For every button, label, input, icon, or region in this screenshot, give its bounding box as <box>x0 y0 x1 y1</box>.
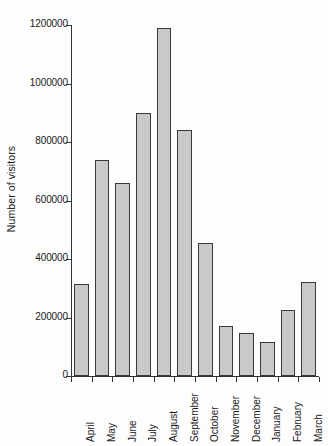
bar-november <box>219 326 233 376</box>
bar-may <box>95 160 109 376</box>
y-tick-label: 1000000 <box>30 77 68 88</box>
x-axis-label-text: August <box>168 411 179 442</box>
x-axis-labels: AprilMayJuneJulyAugustSeptemberOctoberNo… <box>71 382 321 446</box>
y-tick-label: 0 <box>63 369 68 380</box>
x-axis-label-text: September <box>189 393 200 442</box>
bar-december <box>239 333 253 376</box>
y-axis-title-text: Number of visitors <box>5 146 17 232</box>
y-tick-label: 200000 <box>35 311 68 322</box>
bar-january <box>260 342 274 377</box>
x-axis-label-text: November <box>230 396 241 442</box>
y-tick-label: 600000 <box>35 194 68 205</box>
y-tick-label: 800000 <box>35 135 68 146</box>
bar-chart: Number of visitors 020000040000060000080… <box>0 0 328 446</box>
bar-september <box>177 130 191 376</box>
x-axis-label-text: March <box>313 414 324 442</box>
bar-august <box>157 28 171 376</box>
y-tick-label: 400000 <box>35 252 68 263</box>
plot-area: 020000040000060000080000010000001200000 <box>71 20 321 377</box>
y-axis-title: Number of visitors <box>0 0 22 378</box>
y-tick-label: 1200000 <box>30 18 68 29</box>
bar-october <box>198 243 212 376</box>
bar-july <box>136 113 150 376</box>
bar-february <box>281 310 295 376</box>
bar-april <box>74 284 88 376</box>
x-axis-label-text: May <box>106 423 117 442</box>
x-axis-label-text: January <box>271 406 282 442</box>
x-axis-label-text: July <box>147 424 158 442</box>
x-axis-label-text: June <box>127 420 138 442</box>
x-axis-label-text: February <box>292 402 303 442</box>
x-axis-label-text: October <box>209 406 220 442</box>
x-axis-label-text: December <box>251 396 262 442</box>
bar-june <box>115 183 129 376</box>
bars-layer <box>71 20 321 377</box>
x-axis-label-text: April <box>85 422 96 442</box>
bar-march <box>301 282 315 376</box>
